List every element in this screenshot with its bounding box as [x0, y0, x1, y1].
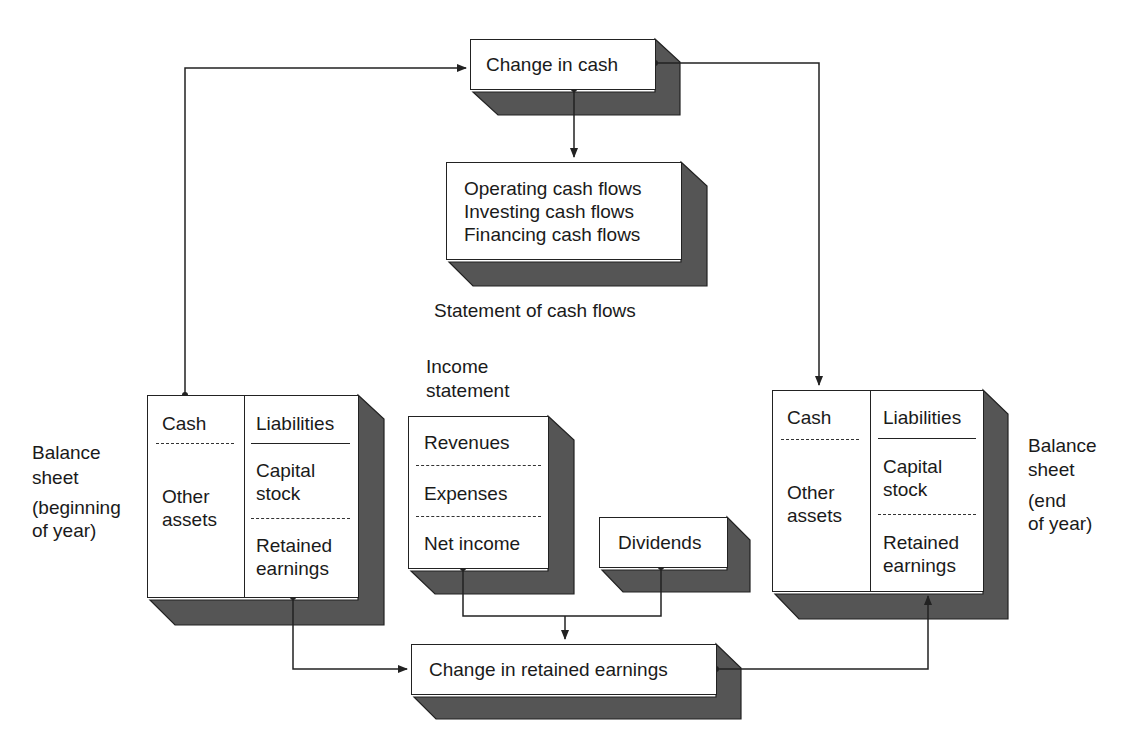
bs-begin-other-2: assets	[162, 508, 217, 531]
financial-statements-diagram: Change in cash Operating cash flows Inve…	[0, 0, 1141, 747]
bs-end-caption-1: Balance	[1028, 433, 1097, 458]
income-dash-2	[416, 516, 541, 517]
bs-end-other-2: assets	[787, 504, 842, 527]
bs-end-liabilities: Liabilities	[883, 406, 961, 429]
bs-begin-cash: Cash	[162, 412, 206, 435]
bs-begin-divider	[244, 396, 245, 597]
connectors	[0, 0, 1141, 747]
bs-end-capital-2: stock	[883, 478, 927, 501]
change-in-cash-box: Change in cash	[470, 39, 656, 90]
income-net-income: Net income	[424, 532, 520, 555]
dividends-box: Dividends	[599, 517, 728, 568]
cash-flows-caption: Statement of cash flows	[434, 298, 636, 323]
bs-begin-other-1: Other	[162, 485, 210, 508]
bs-begin-capital-1: Capital	[256, 459, 315, 482]
income-expenses: Expenses	[424, 482, 507, 505]
income-statement-box: Revenues Expenses Net income	[408, 416, 549, 569]
bs-begin-caption-2: sheet	[32, 465, 78, 490]
bs-end-cash: Cash	[787, 406, 831, 429]
income-caption-1: Income	[426, 354, 488, 379]
bs-begin-retained-1: Retained	[256, 534, 332, 557]
investing-cash-flows: Investing cash flows	[464, 200, 634, 223]
bs-end-capital-1: Capital	[883, 455, 942, 478]
bs-end-caption-3: (end	[1028, 488, 1066, 513]
dividends-label: Dividends	[618, 531, 701, 554]
bs-end-retained-2: earnings	[883, 554, 956, 577]
bs-end-capital-dash	[878, 514, 976, 515]
bs-end-caption-2: sheet	[1028, 457, 1074, 482]
bs-end-retained-1: Retained	[883, 531, 959, 554]
bs-end-cash-dash	[781, 439, 859, 440]
bs-begin-capital-2: stock	[256, 482, 300, 505]
balance-sheet-end-box: Cash Other assets Liabilities Capital st…	[772, 390, 984, 592]
bs-begin-caption-1: Balance	[32, 440, 101, 465]
box-shadows	[150, 39, 1008, 719]
income-dash-1	[416, 465, 541, 466]
balance-sheet-begin-box: Cash Other assets Liabilities Capital st…	[147, 395, 359, 598]
financing-cash-flows: Financing cash flows	[464, 223, 640, 246]
income-caption-2: statement	[426, 378, 509, 403]
bs-end-caption-4: of year)	[1028, 511, 1092, 536]
bs-end-other-1: Other	[787, 481, 835, 504]
bs-begin-liab-line	[251, 443, 350, 444]
bs-begin-cash-dash	[156, 443, 234, 444]
bs-end-liab-line	[878, 438, 976, 439]
bs-begin-caption-3: (beginning	[32, 495, 121, 520]
change-in-retained-earnings-label: Change in retained earnings	[429, 658, 668, 681]
bs-begin-capital-dash	[251, 518, 350, 519]
bs-begin-retained-2: earnings	[256, 557, 329, 580]
change-in-retained-earnings-box: Change in retained earnings	[411, 644, 717, 695]
bs-end-divider	[870, 391, 871, 591]
income-revenues: Revenues	[424, 431, 510, 454]
cash-flows-box: Operating cash flows Investing cash flow…	[446, 162, 682, 260]
bs-begin-caption-4: of year)	[32, 518, 96, 543]
bs-begin-liabilities: Liabilities	[256, 412, 334, 435]
change-in-cash-label: Change in cash	[486, 53, 618, 76]
operating-cash-flows: Operating cash flows	[464, 177, 641, 200]
